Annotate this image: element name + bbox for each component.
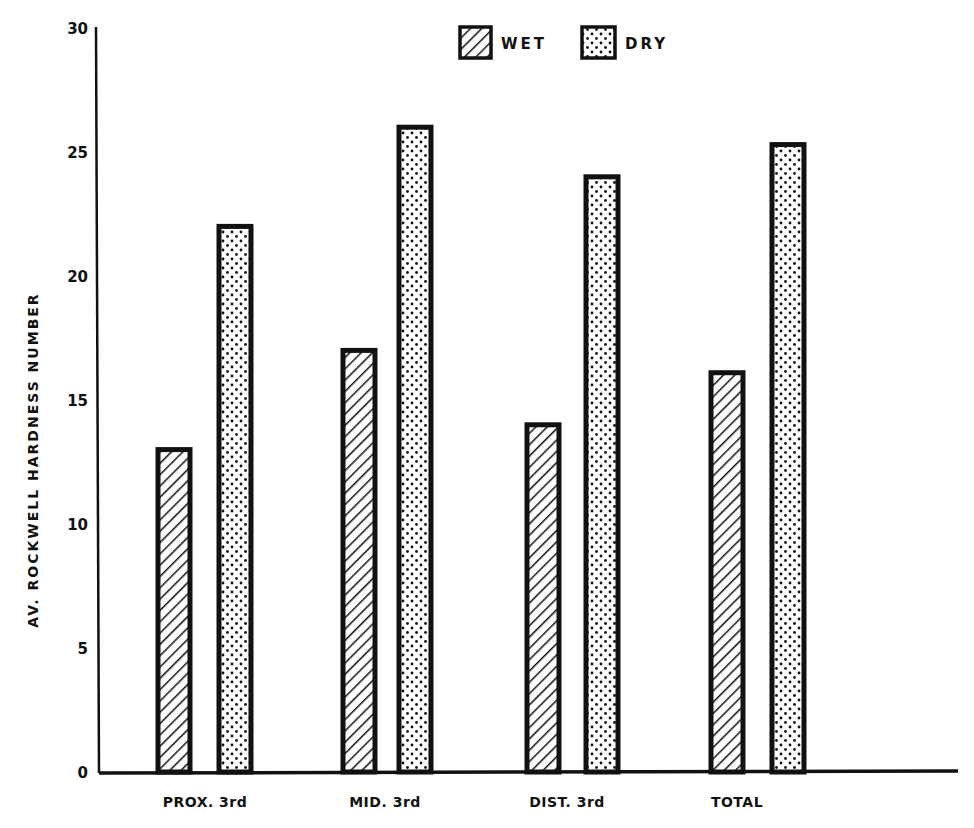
- y-axis-label: AV. ROCKWELL HARDNESS NUMBER: [25, 292, 41, 627]
- bar-wet: [158, 450, 190, 772]
- y-tick-label: 5: [78, 640, 88, 658]
- bars: [158, 127, 804, 772]
- legend-label-wet: WET: [501, 35, 547, 53]
- y-tick-labels: 051015202530: [67, 20, 88, 782]
- bar-wet: [343, 350, 375, 772]
- y-axis: [96, 27, 99, 773]
- category-label: MID. 3rd: [349, 794, 421, 810]
- bar-dry: [772, 145, 804, 772]
- category-label: TOTAL: [711, 794, 763, 810]
- bar-wet: [711, 373, 743, 772]
- bar-dry: [219, 226, 251, 772]
- y-tick-label: 15: [67, 392, 88, 410]
- legend: WET DRY: [460, 27, 668, 58]
- legend-swatch-dry: [582, 27, 615, 58]
- y-tick-label: 10: [67, 516, 88, 534]
- y-tick-label: 0: [78, 764, 88, 782]
- y-tick-label: 30: [67, 20, 88, 38]
- bar-dry: [586, 177, 618, 772]
- y-tick-label: 20: [67, 268, 88, 286]
- legend-label-dry: DRY: [625, 35, 668, 53]
- category-label: DIST. 3rd: [529, 794, 605, 810]
- category-label: PROX. 3rd: [163, 794, 248, 810]
- bar-dry: [399, 127, 431, 772]
- y-tick-label: 25: [67, 144, 88, 162]
- bar-wet: [527, 425, 559, 772]
- legend-swatch-wet: [460, 27, 491, 58]
- bar-chart: 051015202530 AV. ROCKWELL HARDNESS NUMBE…: [0, 0, 974, 828]
- category-labels: PROX. 3rdMID. 3rdDIST. 3rdTOTAL: [163, 794, 763, 810]
